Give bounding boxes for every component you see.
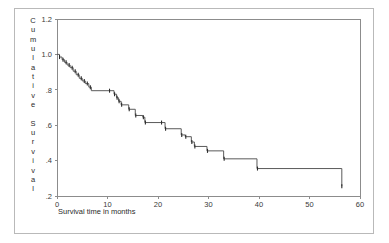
- x-tick-group: 0102030405060: [55, 196, 364, 209]
- y-tick-label: .2: [46, 192, 52, 201]
- y-tick-label: 1.2: [42, 15, 52, 24]
- y-tick-label: 1.0: [42, 50, 52, 59]
- plot-area: 1.21.0.8.6.4.2 0102030405060: [0, 0, 389, 243]
- axis-group: [57, 19, 360, 196]
- y-tick-label: .6: [46, 121, 52, 130]
- x-tick-label: 50: [305, 200, 313, 209]
- y-tick-label: .4: [46, 156, 52, 165]
- x-tick-label: 60: [356, 200, 364, 209]
- x-tick-label: 10: [103, 200, 111, 209]
- km-step-curve: [57, 54, 342, 186]
- x-tick-label: 0: [55, 200, 59, 209]
- km-curve-group: [57, 54, 342, 186]
- survival-chart-figure: Cumulative Survival Survival time in mon…: [0, 0, 389, 243]
- y-tick-group: 1.21.0.8.6.4.2: [42, 15, 57, 201]
- x-tick-label: 40: [255, 200, 263, 209]
- x-tick-label: 30: [204, 200, 212, 209]
- y-tick-label: .8: [46, 86, 52, 95]
- x-tick-label: 20: [154, 200, 162, 209]
